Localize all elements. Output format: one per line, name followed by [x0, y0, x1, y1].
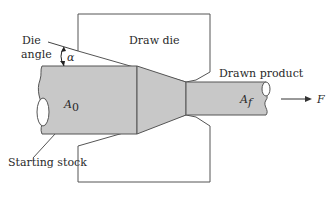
- starting-stock: [38, 66, 137, 134]
- drawn-product: [186, 82, 267, 115]
- force-arrow-head: [305, 96, 312, 102]
- starting-stock-label: Starting stock: [8, 156, 87, 169]
- stock-end-ellipse: [37, 98, 49, 126]
- initial-area-label: A: [63, 98, 72, 111]
- drawn-product-label: Drawn product: [219, 67, 304, 80]
- alpha-label: α: [67, 51, 75, 64]
- initial-area-subscript: 0: [72, 101, 79, 114]
- force-label: F: [316, 93, 325, 106]
- alpha-arrow-bottom: [60, 61, 65, 66]
- die-angle-label-line2: angle: [21, 48, 52, 61]
- drawing-diagram: Die angle α Draw die Drawn product A 0 A…: [0, 0, 336, 197]
- starting-stock-leader: [33, 134, 55, 158]
- product-end-ellipse: [262, 82, 270, 96]
- die-angle-label-line1: Die: [22, 34, 41, 47]
- draw-die-label: Draw die: [129, 34, 180, 47]
- final-area-label: A: [239, 93, 248, 106]
